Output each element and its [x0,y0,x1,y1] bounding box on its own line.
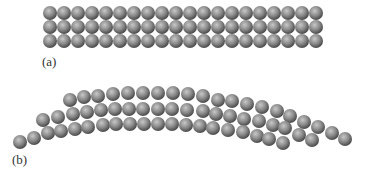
atom [295,6,309,20]
atom [281,34,295,48]
atom [211,34,225,48]
atom [51,110,65,124]
atom [57,6,71,20]
atom [54,124,68,138]
atom [211,6,225,20]
atom [113,20,127,34]
atom [281,6,295,20]
atom [71,34,85,48]
atom [278,121,292,135]
atom [36,113,50,127]
atom [127,34,141,48]
atom [239,20,253,34]
atom [295,20,309,34]
atom [236,125,250,139]
atom [196,89,210,103]
atom [197,34,211,48]
atom [281,20,295,34]
atom [183,20,197,34]
atom [155,20,169,34]
atom [211,20,225,34]
atom [169,6,183,20]
atom [109,117,123,131]
atom [262,132,276,146]
atom [255,100,269,114]
atom [106,87,120,101]
atom [237,112,251,126]
atom [225,94,239,108]
atom [209,107,223,121]
panel-a-straight-lattice [43,6,323,48]
atom [206,121,220,135]
atom [211,93,225,107]
panel-b-label: (b) [12,153,27,166]
atom [13,135,27,149]
atom [85,20,99,34]
panel-b-bent-lattice [13,86,352,150]
atom [266,118,280,132]
atom [252,114,266,128]
atom [141,6,155,20]
atom [225,34,239,48]
atom [96,118,110,132]
atom [165,102,179,116]
atom [253,34,267,48]
atom [77,90,91,104]
atom [276,136,290,150]
atom [85,34,99,48]
atom [151,117,165,131]
atom [94,103,108,117]
atom [137,117,151,131]
atom [151,102,165,116]
atom [325,126,339,140]
atom [292,128,306,142]
atom [99,20,113,34]
atom [223,109,237,123]
atom [81,120,95,134]
atom [113,6,127,20]
atom [113,34,127,48]
atom [127,6,141,20]
atom [179,118,193,132]
atom [240,97,254,111]
atom [267,6,281,20]
atom [108,102,122,116]
atom [297,115,311,129]
atom [283,109,297,123]
atom [180,103,194,117]
atom [253,20,267,34]
atom [136,102,150,116]
atom [338,132,352,146]
atom [239,6,253,20]
atom [155,6,169,20]
atom [193,119,207,133]
atom [311,120,325,134]
atom [57,20,71,34]
atom [27,131,41,145]
atom [43,20,57,34]
atom [123,117,137,131]
atom [197,6,211,20]
atom [309,20,323,34]
atom [66,107,80,121]
lattice-figure [0,0,368,175]
atom [225,20,239,34]
atom [309,6,323,20]
atom [221,123,235,137]
atom [305,133,319,147]
atom [309,34,323,48]
atom [99,34,113,48]
atom [68,122,82,136]
atom [43,34,57,48]
atom [239,34,253,48]
atom [141,20,155,34]
atom [270,104,284,118]
atom [169,34,183,48]
atom [196,104,210,118]
atom [91,89,105,103]
atom [99,6,113,20]
atom [121,86,135,100]
atom [141,34,155,48]
atom [165,117,179,131]
atom [181,87,195,101]
